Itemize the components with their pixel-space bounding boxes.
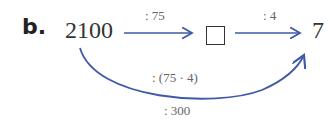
arrows-diagram [0, 0, 330, 137]
arrow-combined [80, 48, 304, 99]
